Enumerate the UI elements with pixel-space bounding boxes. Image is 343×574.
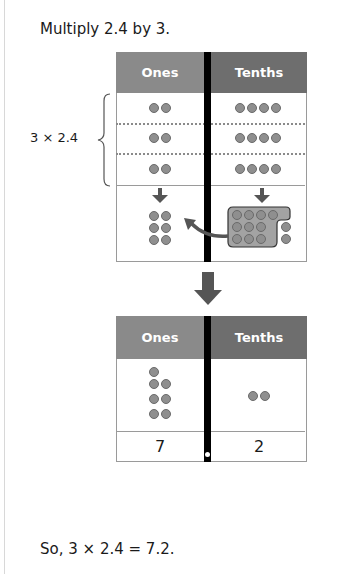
ones-counter: [149, 394, 159, 404]
ones-counter: [149, 223, 159, 233]
ones-counter: [149, 235, 159, 245]
tenths-counter: [260, 391, 270, 401]
tenths-counter: [244, 222, 254, 232]
ones-counter: [149, 409, 159, 419]
header-tenths: Tenths: [211, 52, 307, 93]
ones-counter: [161, 394, 171, 404]
tenths-counter: [232, 222, 242, 232]
tenths-counter: [281, 222, 291, 232]
big-down-arrow-icon: [193, 272, 223, 306]
tenths-counter: [256, 234, 266, 244]
down-arrow-icon: [253, 188, 271, 204]
tenths-counter: [235, 133, 245, 143]
ones-counter: [161, 133, 171, 143]
tenths-counter: [268, 210, 278, 220]
tenths-counter: [247, 164, 257, 174]
down-arrow-icon: [151, 188, 169, 204]
header-ones: Ones: [116, 316, 204, 359]
tenths-counter: [259, 164, 269, 174]
ones-counter: [149, 133, 159, 143]
tenths-counter: [271, 103, 281, 113]
tenths-counter: [232, 210, 242, 220]
tenths-counter: [281, 234, 291, 244]
place-value-chart-top: Ones Tenths: [116, 52, 307, 262]
ones-counter: [149, 164, 159, 174]
decimal-point: [205, 452, 210, 457]
conclusion-statement: So, 3 × 2.4 = 7.2.: [40, 540, 174, 558]
tenths-counter: [256, 222, 266, 232]
tenths-counter: [235, 164, 245, 174]
tenths-counter: [271, 164, 281, 174]
header-ones: Ones: [116, 52, 204, 93]
place-value-chart-bottom: Ones Tenths 7 2: [116, 316, 307, 462]
ones-counter: [161, 235, 171, 245]
curved-regroup-arrow-icon: [178, 216, 230, 242]
tenths-counter: [235, 103, 245, 113]
tenths-counter: [259, 103, 269, 113]
tenths-counter: [247, 103, 257, 113]
ones-counter: [161, 379, 171, 389]
page-margin-rule: [4, 0, 5, 574]
tenths-digit: 2: [211, 437, 307, 456]
decimal-divider: [204, 316, 211, 462]
header-tenths: Tenths: [211, 316, 307, 359]
tenths-counter: [244, 210, 254, 220]
ones-counter: [149, 367, 159, 377]
ones-digit: 7: [116, 437, 204, 456]
ones-counter: [161, 223, 171, 233]
tenths-counter: [244, 234, 254, 244]
ones-counter: [149, 211, 159, 221]
tenths-counter: [256, 210, 266, 220]
ones-counter: [161, 211, 171, 221]
ones-counter: [161, 409, 171, 419]
ones-counter: [149, 103, 159, 113]
ones-counter: [161, 103, 171, 113]
curly-brace-icon: [96, 93, 114, 187]
brace-label: 3 × 2.4: [30, 130, 78, 145]
tenths-counter: [259, 133, 269, 143]
tenths-counter: [232, 234, 242, 244]
problem-prompt: Multiply 2.4 by 3.: [40, 20, 170, 38]
tenths-counter: [271, 133, 281, 143]
ones-counter: [161, 164, 171, 174]
tenths-counter: [248, 391, 258, 401]
tenths-counter: [247, 133, 257, 143]
ones-counter: [149, 379, 159, 389]
